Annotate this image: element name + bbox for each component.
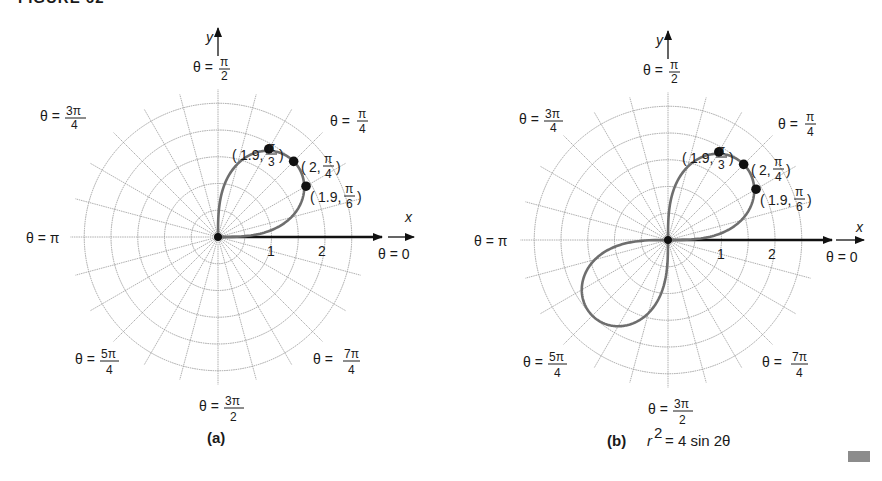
angular-grid-spoke [75, 237, 218, 275]
angular-grid-spoke [114, 237, 218, 341]
angular-grid-spoke [90, 163, 218, 237]
angle-label-pi-over-2: θ = [193, 59, 213, 75]
svg-text:): ) [357, 189, 362, 205]
origin-point [664, 236, 672, 244]
angular-grid-spoke [90, 237, 218, 311]
x-axis-label: x [855, 219, 864, 235]
svg-text:(: ( [682, 150, 687, 166]
svg-text:): ) [729, 150, 734, 166]
angular-grid-spoke [668, 240, 742, 368]
angular-grid-spoke [668, 240, 706, 383]
equation-rest: = 4 sin 2θ [665, 432, 730, 449]
svg-text:π: π [670, 58, 678, 72]
svg-text:7π: 7π [792, 350, 807, 364]
svg-text:π: π [358, 107, 366, 121]
svg-text:): ) [279, 147, 284, 163]
data-point [289, 157, 299, 167]
radial-tick-2: 2 [318, 243, 326, 259]
angular-grid-spoke [594, 112, 668, 240]
y-axis-label: y [205, 29, 214, 45]
angular-grid-spoke [180, 94, 218, 237]
svg-text:3π: 3π [66, 104, 81, 118]
svg-text:4: 4 [71, 118, 78, 132]
angular-grid-spoke [114, 133, 218, 237]
origin-point [214, 233, 222, 241]
angle-label-3pi-over-4: θ = [519, 111, 539, 127]
svg-text:4: 4 [348, 363, 355, 377]
point-label-1-9-pi-6: 1.9, [318, 189, 341, 205]
angle-label-5pi-over-4: θ = [523, 354, 543, 370]
angular-grid-spoke [75, 199, 218, 237]
svg-text:4: 4 [775, 170, 782, 184]
svg-text:4: 4 [807, 125, 814, 139]
angular-grid-spoke [180, 237, 218, 380]
point-label-2-pi-4: 2, [759, 162, 771, 178]
svg-text:π: π [267, 140, 275, 154]
point-label-1-9-pi-3: 1.9, [240, 147, 263, 163]
svg-text:π: π [717, 143, 725, 157]
svg-text:(: ( [310, 189, 315, 205]
svg-text:4: 4 [359, 122, 366, 136]
svg-text:7π: 7π [344, 347, 359, 361]
angular-grid-spoke [144, 237, 218, 365]
svg-text:): ) [807, 192, 812, 208]
svg-text:2: 2 [671, 72, 678, 86]
angle-label-7pi-over-4: θ = [313, 351, 333, 367]
angle-label-0: θ = 0 [378, 246, 410, 262]
svg-text:(: ( [301, 159, 306, 175]
svg-text:5π: 5π [101, 347, 116, 361]
svg-text:4: 4 [796, 366, 803, 380]
angular-grid-spoke [540, 166, 668, 240]
svg-text:4: 4 [550, 121, 557, 135]
point-label-2-pi-4: 2, [309, 159, 321, 175]
svg-text:π: π [324, 152, 332, 166]
angle-label-pi-over-2: θ = [643, 62, 663, 78]
svg-text:2: 2 [221, 69, 228, 83]
svg-text:π: π [795, 185, 803, 199]
svg-text:3π: 3π [674, 397, 689, 411]
angle-label-3pi-over-4: θ = [40, 108, 60, 124]
page-marker [848, 451, 870, 462]
svg-text:4: 4 [325, 167, 332, 181]
radial-tick-2: 2 [768, 246, 776, 262]
angular-grid-spoke [630, 97, 668, 240]
svg-text:4: 4 [106, 363, 113, 377]
point-label-1-9-pi-3: 1.9, [690, 150, 713, 166]
svg-text:π: π [806, 110, 814, 124]
angular-grid-spoke [218, 237, 346, 311]
y-axis-label: y [655, 32, 664, 48]
svg-text:): ) [786, 162, 791, 178]
svg-text:3: 3 [718, 158, 725, 172]
equation-r: r [647, 432, 653, 449]
radial-tick-1: 1 [717, 246, 725, 262]
angle-label-7pi-over-4: θ = [762, 354, 782, 370]
x-axis-label: x [404, 209, 413, 225]
angular-grid-spoke [218, 237, 292, 365]
angle-label-pi-over-4: θ = [778, 116, 798, 132]
angular-grid-spoke [564, 136, 668, 240]
angular-grid-spoke [668, 240, 811, 278]
angle-label-pi-over-4: θ = [330, 113, 350, 129]
angular-grid-spoke [564, 240, 668, 344]
caption-b: (b) [607, 432, 626, 449]
svg-text:4: 4 [554, 366, 561, 380]
caption-a: (a) [207, 429, 225, 446]
svg-text:π: π [220, 55, 228, 69]
svg-text:(: ( [751, 162, 756, 178]
svg-text:π: π [774, 155, 782, 169]
angle-label-pi: θ = π [26, 230, 60, 246]
point-label-1-9-pi-6: 1.9, [768, 192, 791, 208]
svg-text:π: π [345, 182, 353, 196]
svg-text:2: 2 [230, 410, 237, 424]
svg-text:(: ( [760, 192, 765, 208]
svg-text:6: 6 [346, 197, 353, 211]
svg-text:3: 3 [268, 155, 275, 169]
equation-exponent: 2 [654, 424, 662, 441]
angular-grid-spoke [668, 240, 796, 314]
svg-text:3π: 3π [225, 394, 240, 408]
angle-label-0: θ = 0 [826, 249, 858, 265]
angular-grid-spoke [218, 237, 361, 275]
angle-label-3pi-over-2: θ = [648, 401, 668, 417]
svg-text:3π: 3π [545, 107, 560, 121]
angle-label-5pi-over-4: θ = [75, 351, 95, 367]
